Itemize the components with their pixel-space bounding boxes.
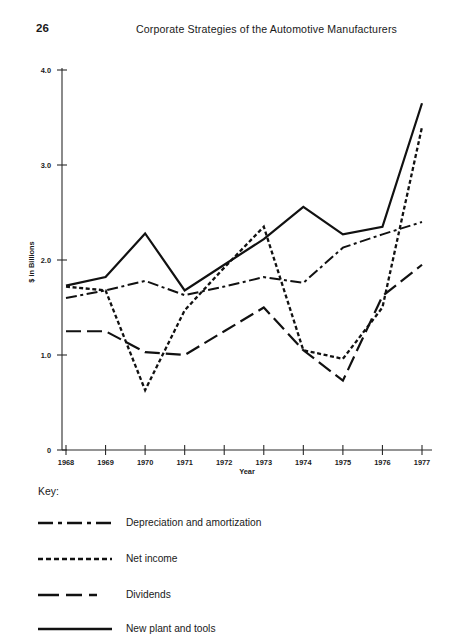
x-tick-label-1972: 1972	[216, 458, 232, 467]
line-chart-figure: 4.03.02.01.00 19681969197019711972197319…	[0, 0, 476, 638]
x-tick-label-1973: 1973	[256, 458, 272, 467]
x-tick-label-1975: 1975	[335, 458, 351, 467]
chart-canvas: 4.03.02.01.00 19681969197019711972197319…	[0, 0, 476, 638]
y-axis-tick-labels: 4.03.02.01.00	[41, 66, 51, 455]
y-tick-label-2: 2.0	[41, 256, 51, 265]
key-swatch-dash-dot	[38, 516, 112, 530]
key-row-depreciation-and-amortization: Depreciation and amortization	[38, 516, 438, 536]
key-label-net-income: Net income	[126, 553, 178, 564]
key-swatch-solid	[38, 622, 112, 636]
key-row-new-plant-and-tools: New plant and tools	[38, 622, 438, 638]
y-tick-label-3: 1.0	[41, 351, 51, 360]
key-label-new-plant-and-tools: New plant and tools	[126, 623, 215, 634]
series-line-new-plant-and-tools	[66, 103, 422, 290]
y-tick-label-0: 4.0	[41, 66, 51, 75]
x-tick-label-1974: 1974	[295, 458, 312, 467]
x-tick-label-1976: 1976	[374, 458, 390, 467]
key-title: Key:	[38, 486, 59, 497]
x-tick-label-1968: 1968	[58, 458, 74, 467]
chart-series-group	[66, 103, 422, 390]
x-axis-tick-labels: 1968196919701971197219731974197519761977	[58, 458, 430, 467]
x-tick-label-1969: 1969	[97, 458, 113, 467]
key-row-net-income: Net income	[38, 552, 438, 572]
x-tick-label-1971: 1971	[176, 458, 192, 467]
key-swatch-dotted	[38, 552, 112, 566]
x-axis-title: Year	[239, 467, 255, 476]
y-tick-label-4: 0	[47, 446, 51, 455]
key-label-depreciation-and-amortization: Depreciation and amortization	[126, 517, 261, 528]
key-swatch-long-dash	[38, 588, 112, 602]
y-axis-title: $ in Billions	[27, 241, 36, 282]
series-line-depreciation-and-amortization	[66, 222, 422, 298]
y-tick-label-1: 3.0	[41, 161, 51, 170]
x-tick-label-1977: 1977	[414, 458, 430, 467]
key-row-dividends: Dividends	[38, 588, 438, 608]
key-label-dividends: Dividends	[126, 589, 171, 600]
series-line-net-income	[66, 127, 422, 390]
x-tick-label-1970: 1970	[137, 458, 153, 467]
